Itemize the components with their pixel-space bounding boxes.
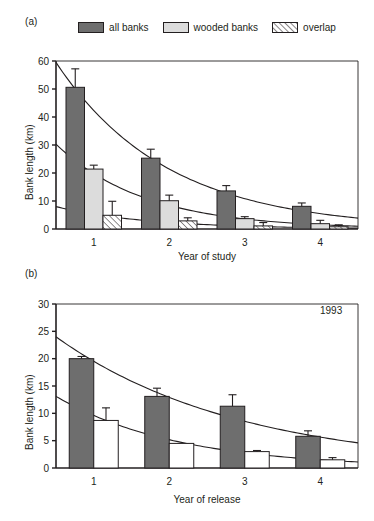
- x-tick-label: 3: [242, 476, 248, 487]
- figure-root: (a) all banks wooded banks overla: [0, 0, 374, 521]
- bar: [220, 406, 245, 468]
- bar: [311, 224, 330, 229]
- bar: [293, 206, 312, 229]
- y-tick-label: 10: [38, 196, 50, 207]
- panel-b-plot: 0510152025301234: [0, 260, 374, 521]
- y-tick-label: 30: [38, 299, 50, 310]
- x-tick-label: 1: [91, 476, 97, 487]
- bar: [245, 452, 270, 468]
- bar: [142, 158, 161, 229]
- y-tick-label: 25: [38, 326, 50, 337]
- bar: [236, 219, 255, 229]
- y-tick-label: 5: [43, 435, 49, 446]
- x-tick-label: 2: [166, 237, 172, 248]
- x-tick-label: 2: [166, 476, 172, 487]
- bar: [296, 436, 321, 468]
- y-tick-label: 60: [38, 56, 50, 67]
- panel-a-plot: 01020304050601234: [0, 0, 374, 260]
- bar: [103, 215, 122, 229]
- y-tick-label: 40: [38, 112, 50, 123]
- x-tick-label: 1: [91, 237, 97, 248]
- y-tick-label: 20: [38, 168, 50, 179]
- bar: [66, 87, 85, 229]
- bar: [169, 443, 194, 468]
- bar: [330, 227, 349, 229]
- y-tick-label: 0: [43, 224, 49, 235]
- bar: [160, 201, 179, 229]
- bar: [254, 226, 273, 229]
- bar: [179, 221, 198, 229]
- y-tick-label: 50: [38, 84, 50, 95]
- bar: [94, 420, 119, 468]
- bar: [320, 460, 345, 468]
- bar: [85, 169, 104, 229]
- x-tick-label: 4: [317, 237, 323, 248]
- x-tick-label: 4: [317, 476, 323, 487]
- y-tick-label: 20: [38, 353, 50, 364]
- bar: [69, 359, 94, 468]
- panel-b-x-axis-title: Year of release: [56, 494, 358, 505]
- y-tick-label: 10: [38, 408, 50, 419]
- y-tick-label: 30: [38, 140, 50, 151]
- y-tick-label: 0: [43, 463, 49, 474]
- y-tick-label: 15: [38, 381, 50, 392]
- bar: [145, 396, 170, 468]
- x-tick-label: 3: [242, 237, 248, 248]
- bar: [217, 191, 236, 229]
